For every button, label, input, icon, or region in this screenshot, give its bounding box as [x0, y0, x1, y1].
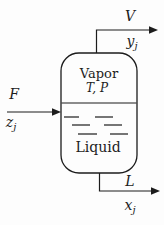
vessel-conditions-label: T, P	[86, 82, 108, 94]
feed-composition-label: zj	[6, 115, 17, 129]
vapor-composition-label: yj	[126, 34, 137, 48]
vapor-composition-symbol: y	[126, 33, 134, 49]
liquid-flow-label: L	[125, 174, 134, 188]
feed-arrowhead-icon	[52, 108, 61, 116]
vapor-composition-subscript: j	[134, 40, 137, 51]
liquid-zone-label: Liquid	[75, 140, 120, 154]
flash-drum-diagram: Vapor T, P Liquid V yj F zj L xj	[0, 0, 164, 225]
vapor-arrowhead-icon	[149, 26, 158, 34]
vapor-stream-line	[97, 30, 151, 53]
vapor-flow-label: V	[125, 9, 135, 23]
liquid-composition-symbol: x	[124, 197, 132, 213]
diagram-canvas	[0, 0, 164, 225]
liquid-composition-subscript: j	[132, 204, 135, 215]
vapor-zone-label: Vapor	[80, 67, 118, 80]
liquid-arrowhead-icon	[151, 187, 160, 195]
feed-composition-subscript: j	[13, 121, 16, 132]
liquid-composition-label: xj	[124, 198, 135, 212]
feed-flow-label: F	[9, 87, 19, 101]
